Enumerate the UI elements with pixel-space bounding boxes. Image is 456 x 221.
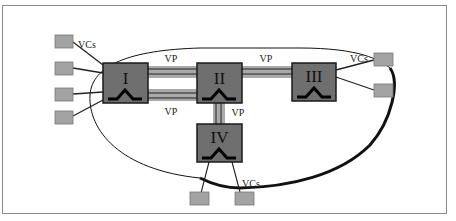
vcs-label-bottom: VCs [242,178,260,189]
vp-link-ii-iv [213,102,225,124]
network-diagram: I II III IV VP VP VP VP VCs VCs VCs [0,0,456,221]
switch-i: I [103,63,148,103]
vp-label-ii-iv: VP [232,107,245,118]
terminal [55,111,73,124]
terminal [190,192,209,205]
switch-label: II [214,69,226,88]
terminals-right [374,53,393,97]
vcs-label-right: VCs [350,53,368,64]
vp-label-i-ii-bottom: VP [165,106,178,117]
switch-label: I [123,69,129,88]
terminal [55,88,73,101]
vp-link-ii-iii [242,66,292,78]
terminals-bottom [190,192,254,205]
switch-ii: II [197,63,242,103]
vp-label-i-ii-top: VP [165,53,178,64]
terminals-left [55,35,73,124]
terminal [55,35,73,48]
vp-link-i-ii-bottom [148,89,197,101]
terminal [235,192,254,205]
vcs-label-left: VCs [78,39,96,50]
vp-label-ii-iii: VP [260,53,273,64]
terminal [374,84,393,97]
vc-lines-right [336,60,374,90]
terminal [55,62,73,75]
switch-iii: III [292,63,336,101]
switch-label: IV [211,128,230,147]
vc-lines-left [73,42,103,116]
vp-link-i-ii-top [148,66,197,78]
terminal [374,53,393,66]
switch-iv: IV [197,124,242,162]
switch-label: III [306,67,323,86]
